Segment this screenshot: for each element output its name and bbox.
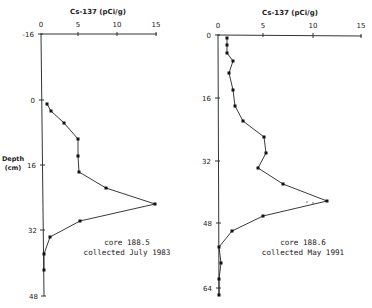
left-xtick-10: 10 — [113, 21, 122, 29]
left-xtick-0: 0 — [39, 21, 43, 29]
left-y-axis-title-line2: (cm) — [5, 164, 22, 172]
right-chart: Cs-137 (pCi/g) 0 5 10 15 0 16 32 48 64 — [202, 9, 365, 297]
left-ytick-16: 16 — [27, 162, 36, 170]
left-xtick-15: 15 — [152, 21, 161, 29]
right-xtick-15: 15 — [357, 22, 366, 30]
left-annotation-date: collected July 1983 — [84, 248, 171, 257]
left-xtick-5: 5 — [76, 21, 80, 29]
right-ytick-48: 48 — [203, 220, 212, 228]
right-annotation-core: core 188.6 — [280, 238, 326, 247]
left-x-axis-title: Cs-137 (pCi/g) — [70, 8, 126, 16]
left-ytick--16: -16 — [23, 31, 35, 39]
left-chart: Cs-137 (pCi/g) 0 5 10 15 -16 0 16 32 48 … — [2, 8, 171, 301]
right-xtick-10: 10 — [309, 22, 318, 30]
right-xtick-5: 5 — [261, 22, 265, 30]
right-x-axis — [217, 35, 362, 36]
right-x-axis-title: Cs-137 (pCi/g) — [262, 9, 318, 17]
right-series-markers — [218, 37, 329, 297]
right-ytick-0: 0 — [207, 32, 211, 40]
left-annotation-core: core 188.5 — [104, 238, 150, 247]
left-ytick-48: 48 — [29, 293, 38, 301]
right-ytick-64: 64 — [203, 285, 212, 293]
cs137-depth-profiles: Cs-137 (pCi/g) 0 5 10 15 -16 0 16 32 48 … — [0, 0, 372, 308]
right-ytick-32: 32 — [202, 158, 211, 166]
left-ytick-32: 32 — [28, 227, 37, 235]
right-stray-marks — [306, 201, 313, 203]
left-ytick-0: 0 — [31, 97, 35, 105]
right-xtick-0: 0 — [216, 22, 220, 30]
left-y-axis-title-line1: Depth — [2, 155, 25, 163]
right-annotation-date: collected May 1991 — [262, 248, 345, 257]
right-y-axis — [218, 35, 219, 296]
right-ytick-16: 16 — [202, 95, 211, 103]
